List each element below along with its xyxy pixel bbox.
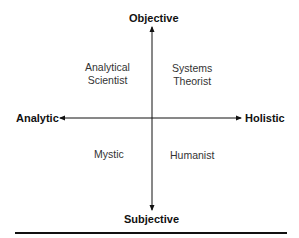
quadrant-label-line: Mystic	[94, 148, 124, 161]
quadrant-top-left: Analytical Scientist	[85, 61, 130, 87]
axis-label-subjective: Subjective	[124, 213, 179, 225]
axis-label-objective: Objective	[129, 12, 179, 24]
quadrant-top-right: Systems Theorist	[172, 62, 212, 88]
quadrant-label-line: Theorist	[172, 75, 212, 88]
quadrant-label-line: Systems	[172, 62, 212, 75]
quadrant-label-line: Humanist	[170, 149, 214, 162]
quadrant-bottom-right: Humanist	[170, 149, 214, 162]
axis-label-analytic: Analytic	[16, 112, 59, 124]
axis-label-holistic: Holistic	[245, 112, 285, 124]
quadrant-label-line: Analytical	[85, 61, 130, 74]
quadrant-bottom-left: Mystic	[94, 148, 124, 161]
quadrant-label-line: Scientist	[85, 74, 130, 87]
